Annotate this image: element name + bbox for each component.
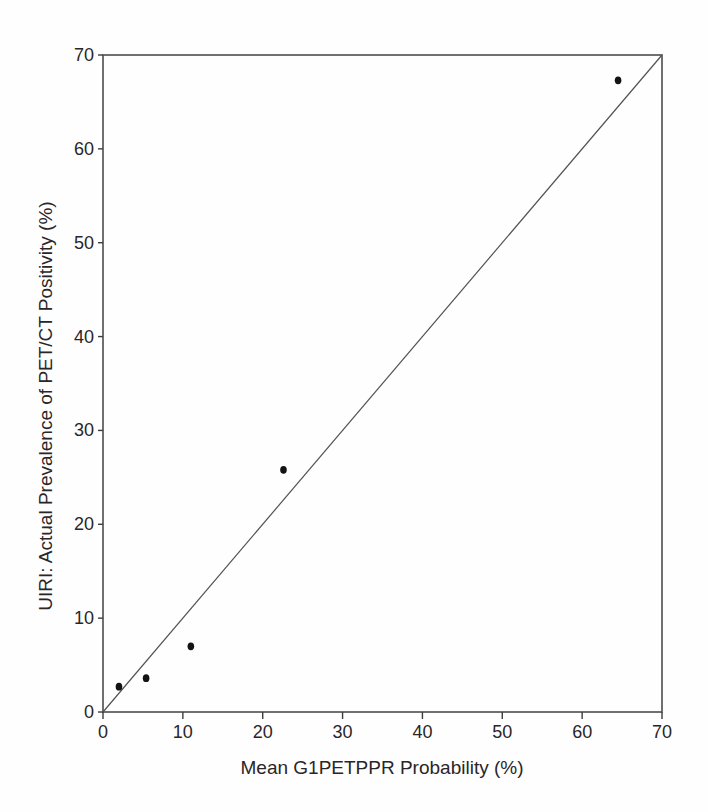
y-axis-tick-label: 30	[74, 420, 94, 440]
x-axis-tick-label: 20	[253, 722, 273, 742]
figure-page: 010203040506070010203040506070 UIRI: Act…	[0, 0, 708, 812]
y-axis-tick-label: 60	[74, 139, 94, 159]
data-point	[280, 466, 287, 474]
x-axis-tick-label: 30	[333, 722, 353, 742]
y-axis-tick-label: 20	[74, 514, 94, 534]
y-axis-tick-label: 40	[74, 327, 94, 347]
data-point	[143, 674, 150, 682]
y-axis-tick-label: 70	[74, 45, 94, 65]
x-axis-title: Mean G1PETPPR Probability (%)	[241, 757, 524, 778]
y-axis-tick-label: 10	[74, 608, 94, 628]
y-axis-title: UIRI: Actual Prevalence of PET/CT Positi…	[35, 201, 56, 610]
data-point	[615, 76, 622, 84]
x-axis-tick-label: 60	[572, 722, 592, 742]
scatter-chart: 010203040506070010203040506070 UIRI: Act…	[0, 0, 708, 812]
plot-area: 010203040506070010203040506070	[74, 45, 672, 742]
x-axis-tick-label: 70	[652, 722, 672, 742]
y-axis-tick-label: 0	[84, 702, 94, 722]
x-axis-tick-label: 10	[173, 722, 193, 742]
data-point	[116, 683, 123, 691]
x-axis-tick-label: 0	[98, 722, 108, 742]
identity-line	[103, 55, 662, 712]
x-axis-tick-label: 50	[492, 722, 512, 742]
data-point	[188, 642, 195, 650]
x-axis-tick-label: 40	[412, 722, 432, 742]
y-axis-tick-label: 50	[74, 233, 94, 253]
